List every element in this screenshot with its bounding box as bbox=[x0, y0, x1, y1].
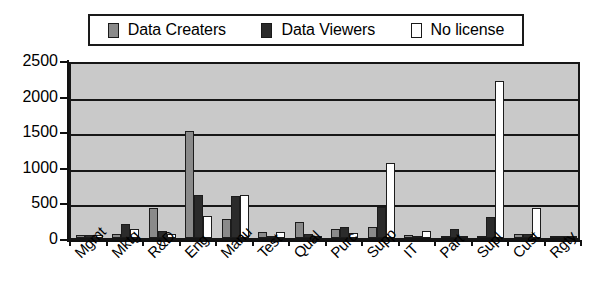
bar-it-data-creaters bbox=[404, 235, 413, 238]
x-tick-mark-rd bbox=[142, 240, 144, 246]
x-tick-mark-end bbox=[580, 240, 582, 246]
x-tick-mark-test bbox=[252, 240, 254, 246]
x-tick-mark-supp bbox=[361, 240, 363, 246]
legend-label-no-license: No license bbox=[431, 21, 505, 39]
x-tick-mark-it bbox=[398, 240, 400, 246]
legend-entry-data-creaters: Data Creaters bbox=[108, 21, 226, 39]
y-tick-label-2000: 2000 bbox=[0, 89, 58, 105]
x-tick-label-it: IT bbox=[400, 240, 421, 261]
x-tick-mark-qual bbox=[288, 240, 290, 246]
bar-eng-data-creaters bbox=[185, 131, 194, 238]
y-tick-mark-1500 bbox=[60, 132, 67, 134]
legend-label-data-viewers: Data Viewers bbox=[281, 21, 375, 39]
legend-swatch-data-viewers-icon bbox=[261, 23, 272, 38]
x-tick-mark-rgty bbox=[544, 240, 546, 246]
chart-legend: Data Creaters Data Viewers No license bbox=[88, 14, 524, 46]
legend-entry-data-viewers: Data Viewers bbox=[261, 21, 375, 39]
legend-swatch-data-creaters-icon bbox=[108, 23, 119, 38]
y-tick-label-0: 0 bbox=[0, 231, 58, 247]
y-tick-mark-500 bbox=[60, 203, 67, 205]
y-tick-label-2500: 2500 bbox=[0, 53, 58, 69]
plot-inner bbox=[71, 64, 578, 238]
y-tick-mark-2000 bbox=[60, 97, 67, 99]
y-tick-label-1000: 1000 bbox=[0, 160, 58, 176]
bar-supl-no-license bbox=[495, 81, 504, 238]
x-tick-mark-part bbox=[434, 240, 436, 246]
x-tick-mark-manu bbox=[215, 240, 217, 246]
y-tick-mark-0 bbox=[60, 239, 67, 241]
bar-eng-no-license bbox=[203, 216, 212, 238]
bar-it-data-viewers bbox=[413, 236, 422, 238]
y-axis-tick-labels: 05001000150020002500 bbox=[0, 0, 58, 307]
x-tick-mark-mktg bbox=[106, 240, 108, 246]
plot-area bbox=[69, 62, 580, 240]
legend-entry-no-license: No license bbox=[411, 21, 505, 39]
x-tick-mark-eng bbox=[179, 240, 181, 246]
x-tick-mark-mgmt bbox=[69, 240, 71, 246]
bar-it-no-license bbox=[422, 231, 431, 238]
legend-label-data-creaters: Data Creaters bbox=[128, 21, 226, 39]
x-tick-mark-purc bbox=[325, 240, 327, 246]
y-tick-mark-2500 bbox=[60, 61, 67, 63]
y-tick-label-500: 500 bbox=[0, 195, 58, 211]
y-tick-mark-1000 bbox=[60, 168, 67, 170]
bar-chart-figure: Data Creaters Data Viewers No license 05… bbox=[0, 0, 611, 307]
y-tick-label-1500: 1500 bbox=[0, 124, 58, 140]
legend-swatch-no-license-icon bbox=[411, 23, 422, 38]
bar-rd-data-creaters bbox=[149, 208, 158, 238]
x-tick-mark-cust bbox=[507, 240, 509, 246]
x-tick-mark-supl bbox=[471, 240, 473, 246]
